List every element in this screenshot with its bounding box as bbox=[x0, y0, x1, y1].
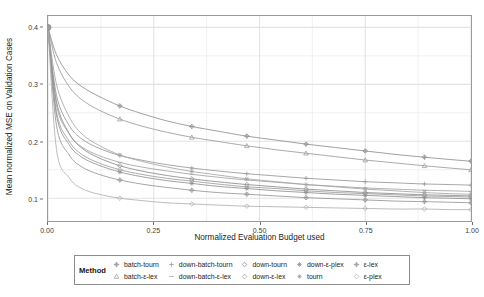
legend-items: batch-tourndown-batch-tourndown-tourndow… bbox=[112, 258, 382, 282]
legend-item-label: down-ε-lex bbox=[252, 272, 285, 281]
y-tick-mark bbox=[40, 84, 43, 85]
legend-key-icon bbox=[240, 260, 249, 269]
y-axis-ticks: 0.10.20.30.4 bbox=[0, 0, 44, 240]
x-tick-mark bbox=[366, 222, 367, 225]
legend-item--plex[interactable]: ε-plex bbox=[352, 272, 382, 281]
legend-item-down-lex[interactable]: down-ε-lex bbox=[240, 272, 286, 281]
legend-item-down-batch-lex[interactable]: down-batch-ε-lex bbox=[167, 272, 233, 281]
legend-key-icon bbox=[295, 272, 304, 281]
legend-item-label: ε-lex bbox=[364, 260, 378, 269]
legend-item-label: ε-plex bbox=[364, 272, 382, 281]
legend-key-icon bbox=[112, 272, 121, 281]
legend-item-batch-lex[interactable]: batch-ε-lex bbox=[112, 272, 159, 281]
legend: Method batch-tourndown-batch-tourndown-t… bbox=[74, 255, 410, 285]
y-tick-label: 0.3 bbox=[28, 81, 38, 88]
plot-area bbox=[48, 16, 471, 221]
legend-item-label: batch-tourn bbox=[124, 260, 159, 269]
legend-key-icon bbox=[167, 272, 176, 281]
x-axis-label: Normalized Evaluation Budget used bbox=[47, 233, 472, 242]
start-point-marker bbox=[48, 24, 51, 30]
legend-key-icon bbox=[295, 260, 304, 269]
x-tick-mark bbox=[260, 222, 261, 225]
x-tick-mark bbox=[47, 222, 48, 225]
legend-item-label: down-ε-plex bbox=[307, 260, 344, 269]
legend-key-icon bbox=[240, 272, 249, 281]
legend-item-tourn[interactable]: tourn bbox=[295, 272, 344, 281]
legend-item-batch-tourn[interactable]: batch-tourn bbox=[112, 260, 159, 269]
legend-key-icon bbox=[352, 272, 361, 281]
y-tick-label: 0.1 bbox=[28, 196, 38, 203]
legend-item-label: down-tourn bbox=[252, 260, 286, 269]
legend-item-down-tourn[interactable]: down-tourn bbox=[240, 260, 286, 269]
legend-item-label: batch-ε-lex bbox=[124, 272, 157, 281]
legend-key-icon bbox=[167, 260, 176, 269]
legend-item-label: down-batch-ε-lex bbox=[179, 272, 231, 281]
x-tick-mark bbox=[472, 222, 473, 225]
y-tick-label: 0.2 bbox=[28, 138, 38, 145]
x-tick-mark bbox=[153, 222, 154, 225]
y-tick-label: 0.4 bbox=[28, 23, 38, 30]
legend-item-label: down-batch-tourn bbox=[179, 260, 233, 269]
legend-title: Method bbox=[79, 266, 106, 275]
chart-container: Mean normalized MSE on Validation Cases … bbox=[0, 0, 484, 240]
y-tick-mark bbox=[40, 26, 43, 27]
y-tick-mark bbox=[40, 199, 43, 200]
legend-item-down-plex[interactable]: down-ε-plex bbox=[295, 260, 344, 269]
legend-item--lex[interactable]: ε-lex bbox=[352, 260, 382, 269]
legend-item-down-batch-tourn[interactable]: down-batch-tourn bbox=[167, 260, 233, 269]
legend-item-label: tourn bbox=[307, 272, 323, 281]
plot-panel bbox=[47, 15, 472, 222]
y-tick-mark bbox=[40, 141, 43, 142]
legend-key-icon bbox=[112, 260, 121, 269]
legend-key-icon bbox=[352, 260, 361, 269]
